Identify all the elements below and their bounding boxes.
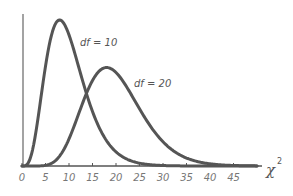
x-tick-label: 35 [180, 172, 193, 183]
x-tick-label: 10 [63, 172, 76, 183]
x-tick-label: 40 [204, 172, 217, 183]
x-tick-label: 0 [19, 172, 25, 183]
x-axis-title-superscript: 2 [277, 157, 282, 166]
x-axis-tick-labels: 051015202530354045 [19, 172, 240, 183]
x-tick-label: 30 [157, 172, 170, 183]
chi-square-chart: 051015202530354045 df = 10 df = 20 χ 2 [0, 0, 293, 196]
label-df-20: df = 20 [134, 78, 171, 89]
x-tick-label: 15 [86, 172, 99, 183]
x-tick-label: 5 [42, 172, 48, 183]
x-tick-label: 20 [110, 172, 123, 183]
x-tick-label: 45 [227, 172, 240, 183]
curve-df-10 [22, 20, 257, 166]
label-df-10: df = 10 [80, 37, 117, 48]
x-axis-title: χ [265, 161, 276, 179]
x-tick-label: 25 [133, 172, 146, 183]
